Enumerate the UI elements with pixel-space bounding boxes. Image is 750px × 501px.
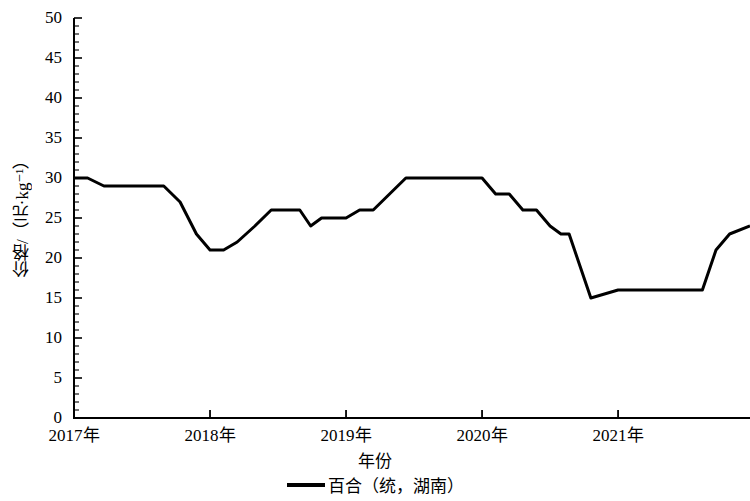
y-tick-label: 45 [28,49,62,66]
y-tick-label: 20 [28,249,62,266]
y-tick-label: 10 [28,329,62,346]
y-tick-label: 5 [28,369,62,386]
data-line-0 [74,178,750,298]
x-axis-label: 年份 [0,447,750,472]
data-series-layer [74,178,750,298]
x-tick-label: 2019年 [301,427,391,444]
x-tick-label: 2017年 [29,427,119,444]
x-tick-label: 2021年 [573,427,663,444]
y-tick-label: 15 [28,289,62,306]
y-tick-label: 0 [28,409,62,426]
y-tick-label: 50 [28,9,62,26]
y-tick-label: 25 [28,209,62,226]
y-tick-label: 30 [28,169,62,186]
legend-line-swatch [287,483,325,487]
chart-axes [74,18,750,418]
legend-label: 百合（统，湖南） [328,472,464,497]
chart-legend: 百合（统，湖南） [0,472,750,497]
x-tick-label: 2018年 [165,427,255,444]
y-tick-label: 35 [28,129,62,146]
y-tick-label: 40 [28,89,62,106]
price-line-chart: 价格/（元·kg⁻¹） 05101520253035404550 2017年20… [0,0,750,501]
x-tick-label: 2020年 [437,427,527,444]
